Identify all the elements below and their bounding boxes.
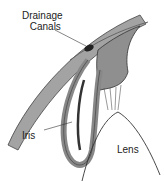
drainage-leader-line xyxy=(55,30,86,46)
eye-anatomy-diagram: Drainage Canals Iris Lens xyxy=(0,0,164,181)
lens-label: Lens xyxy=(117,144,139,155)
iris-leader-line xyxy=(44,122,72,130)
drainage-canals-label: Drainage Canals xyxy=(22,10,63,32)
iris-label: Iris xyxy=(22,130,35,141)
